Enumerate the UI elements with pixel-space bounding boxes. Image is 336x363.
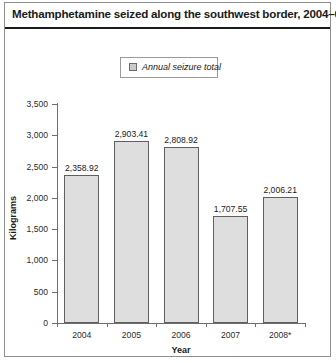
x-axis-tick [57,323,58,327]
y-axis-tick-label: 3,500 [4,99,48,109]
x-axis-title: Year [57,345,305,355]
y-axis-tick-label: 0 [4,318,48,328]
y-axis-tick [52,135,57,136]
y-axis-tick-label: 3,000 [4,130,48,140]
legend-swatch-icon [129,63,137,71]
bar-value-label: 2,358.92 [52,163,112,173]
legend-entry: Annual seizure total [129,62,221,72]
x-axis-tick-label: 2004 [57,330,107,340]
bar [64,175,99,323]
y-axis-tick [52,104,57,105]
bar [213,216,248,323]
x-axis-tick [255,323,256,327]
y-axis-tick-label: 1,000 [4,255,48,265]
y-axis-tick-label: 500 [4,287,48,297]
bar-value-label: 2,006.21 [250,185,310,195]
bar-value-label: 2,808.92 [151,135,211,145]
x-axis-line [57,323,305,324]
figure-frame-left [4,2,5,357]
x-axis-tick-label: 2007 [206,330,256,340]
figure-frame-right [330,2,331,357]
y-axis-tick [52,292,57,293]
y-axis-title: Kilograms [8,183,18,253]
x-axis-tick [206,323,207,327]
x-axis-tick-label: 2008* [255,330,305,340]
y-axis-tick [52,260,57,261]
x-axis-tick [156,323,157,327]
title-divider [5,27,330,29]
x-axis-tick-label: 2006 [156,330,206,340]
x-axis-tick-label: 2005 [106,330,156,340]
bar [164,147,199,323]
x-axis-tick [305,323,306,327]
chart-figure: Methamphetamine seized along the southwe… [0,0,336,363]
chart-legend: Annual seizure total [120,57,218,78]
bar [114,141,149,323]
y-axis-tick [52,198,57,199]
bar [263,197,298,323]
y-axis-tick-label: 2,500 [4,162,48,172]
y-axis-line [57,103,58,324]
bar-value-label: 1,707.55 [201,204,261,214]
chart-title: Methamphetamine seized along the southwe… [12,7,324,20]
figure-frame-bottom [4,356,331,357]
x-axis-tick [107,323,108,327]
figure-frame-top [4,2,331,3]
y-axis-tick [52,229,57,230]
legend-label: Annual seizure total [142,62,221,72]
